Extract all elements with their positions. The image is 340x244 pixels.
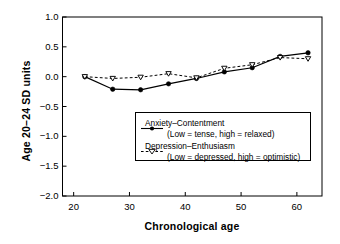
legend-label-depression-enthusiasm: Depression–Enthusiasm <box>145 142 235 151</box>
legend-sub-anxiety-contentment: (Low = tense, high = relaxed) <box>167 130 274 139</box>
data-point-marker <box>110 76 115 81</box>
legend-label-anxiety-contentment: Anxiety–Contentment <box>145 119 224 128</box>
chart-figure: Age 20–24 SD units Chronological age 1.0… <box>0 0 340 244</box>
data-point-marker <box>305 57 310 62</box>
chart-legend: Anxiety–Contentment (Low = tense, high =… <box>135 112 311 161</box>
data-point-marker <box>166 72 171 77</box>
plot-frame <box>63 17 323 196</box>
series-line-0 <box>85 53 308 90</box>
data-point-marker <box>138 88 142 92</box>
data-point-marker <box>82 75 87 80</box>
data-point-marker <box>222 66 227 71</box>
data-point-marker <box>306 51 310 55</box>
data-point-marker <box>138 75 143 80</box>
data-point-marker <box>277 56 282 61</box>
data-point-marker <box>111 87 115 91</box>
legend-sub-depression-enthusiasm: (Low = depressed, high = optimistic) <box>167 153 300 162</box>
data-point-marker <box>166 82 170 86</box>
